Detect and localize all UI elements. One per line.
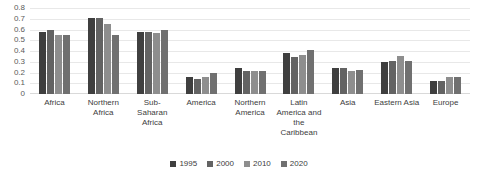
bar	[430, 81, 437, 94]
bar	[259, 71, 266, 94]
bar	[210, 73, 217, 95]
bar	[235, 68, 242, 94]
bar-group	[372, 8, 421, 94]
legend-swatch-icon	[244, 161, 250, 167]
chart-legend: 1995200020102020	[0, 160, 478, 168]
y-axis-tick-label: 0.6	[14, 26, 25, 34]
y-axis-tick-label: 0.3	[14, 58, 25, 66]
bar-group	[79, 8, 128, 94]
category-label: Sub-Saharan Africa	[128, 98, 177, 154]
bar	[96, 18, 103, 94]
bar	[47, 30, 54, 95]
bar	[299, 55, 306, 94]
category-label: Northern Africa	[79, 98, 128, 154]
category-label: Latin America and the Caribbean	[274, 98, 323, 154]
bar	[161, 30, 168, 95]
bar	[88, 18, 95, 94]
legend-swatch-icon	[207, 161, 213, 167]
category-label: Asia	[323, 98, 372, 154]
bar	[283, 53, 290, 94]
legend-swatch-icon	[170, 161, 176, 167]
bar	[202, 77, 209, 94]
y-axis-tick-label: 0.2	[14, 69, 25, 77]
bar	[446, 77, 453, 94]
legend-label: 1995	[179, 160, 197, 168]
category-label: America	[177, 98, 226, 154]
legend-item[interactable]: 2000	[207, 160, 234, 168]
category-label: Eastern Asia	[372, 98, 421, 154]
bar	[243, 71, 250, 94]
bar-group	[274, 8, 323, 94]
category-axis-labels: AfricaNorthern AfricaSub-Saharan AfricaA…	[30, 98, 470, 154]
legend-item[interactable]: 2010	[244, 160, 271, 168]
bar	[55, 35, 62, 94]
legend-swatch-icon	[281, 161, 287, 167]
bar	[63, 35, 70, 94]
legend-label: 2000	[216, 160, 234, 168]
bar-group	[128, 8, 177, 94]
category-label: Africa	[30, 98, 79, 154]
bar	[332, 68, 339, 94]
bar	[153, 33, 160, 94]
bar	[104, 24, 111, 94]
y-axis-tick-label: 0.7	[14, 15, 25, 23]
bar-groups	[30, 8, 470, 94]
bar-group	[177, 8, 226, 94]
bar	[356, 70, 363, 94]
category-label: Northern America	[226, 98, 275, 154]
bar	[194, 79, 201, 94]
bar	[145, 32, 152, 94]
y-axis-tick-label: 0.4	[14, 47, 25, 55]
bar	[340, 68, 347, 94]
y-axis: 0.80.70.60.50.40.30.20.10	[0, 8, 28, 94]
bar	[381, 62, 388, 94]
bar-chart: 0.80.70.60.50.40.30.20.10 AfricaNorthern…	[0, 0, 478, 178]
bar	[397, 56, 404, 94]
bar	[186, 77, 193, 94]
legend-label: 2020	[290, 160, 308, 168]
legend-item[interactable]: 1995	[170, 160, 197, 168]
category-label: Europe	[421, 98, 470, 154]
y-axis-tick-label: 0.8	[14, 4, 25, 12]
bar-group	[226, 8, 275, 94]
bar	[348, 71, 355, 94]
bar-group	[30, 8, 79, 94]
legend-label: 2010	[253, 160, 271, 168]
bar	[39, 32, 46, 94]
bar	[291, 57, 298, 94]
bar	[112, 35, 119, 94]
bar	[137, 32, 144, 94]
legend-item[interactable]: 2020	[281, 160, 308, 168]
y-axis-tick-label: 0	[21, 90, 25, 98]
bar	[438, 81, 445, 94]
bar-group	[421, 8, 470, 94]
bar	[307, 50, 314, 94]
bar	[251, 71, 258, 94]
bar	[405, 61, 412, 94]
bar	[389, 61, 396, 94]
bar-group	[323, 8, 372, 94]
y-axis-tick-label: 0.5	[14, 36, 25, 44]
y-axis-tick-label: 0.1	[14, 79, 25, 87]
bar	[454, 77, 461, 94]
